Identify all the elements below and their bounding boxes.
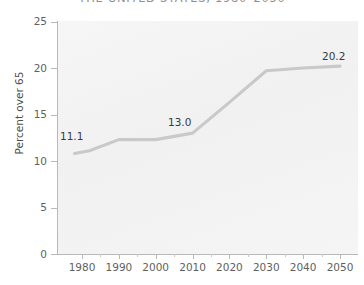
chart-figure: THE UNITED STATES, 1980–2050 25 20 15 10…: [0, 0, 364, 285]
data-label-end: 20.2: [322, 51, 345, 62]
data-label-start: 11.1: [60, 131, 83, 142]
data-label-middle: 13.0: [168, 117, 191, 128]
series-percent-over-65: [75, 66, 340, 154]
series-line-chart: [0, 0, 364, 285]
